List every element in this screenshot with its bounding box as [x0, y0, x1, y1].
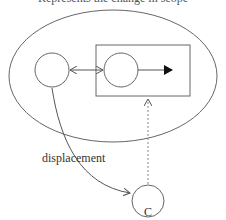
inner-node-circle [104, 53, 138, 87]
left-node-circle [35, 53, 69, 87]
displacement-label: displacement [42, 151, 106, 165]
node-c-label: C [144, 205, 152, 219]
scope-diagram: displacement C [0, 0, 226, 220]
